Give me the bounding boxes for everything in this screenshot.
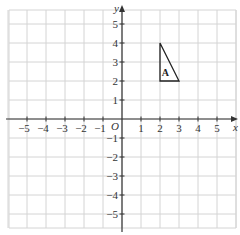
origin-label: O (111, 120, 119, 132)
y-tick-label: −3 (106, 170, 118, 182)
y-tick-label: 5 (113, 18, 119, 30)
x-tick-label: 1 (138, 122, 144, 134)
x-tick-label: 5 (214, 122, 220, 134)
coordinate-grid: xyO−5−4−3−2−112345−5−4−3−2−112345A (0, 0, 240, 235)
x-tick-label: −1 (94, 122, 106, 134)
y-tick-label: −1 (106, 132, 118, 144)
x-tick-label: 2 (157, 122, 163, 134)
x-axis-label: x (232, 121, 238, 133)
y-tick-label: −5 (106, 208, 118, 220)
x-tick-label: 4 (195, 122, 201, 134)
y-tick-label: 3 (113, 56, 119, 68)
y-axis-arrow-icon (119, 5, 125, 12)
y-tick-label: 1 (113, 94, 119, 106)
x-tick-label: −4 (37, 122, 49, 134)
y-tick-label: −4 (106, 189, 118, 201)
y-tick-label: 4 (113, 37, 119, 49)
x-tick-label: −5 (18, 122, 30, 134)
shape-label: A (162, 67, 170, 78)
y-tick-label: −2 (106, 151, 118, 163)
x-tick-label: −2 (75, 122, 87, 134)
y-tick-label: 2 (113, 75, 119, 87)
y-axis-label: y (113, 2, 119, 14)
x-tick-label: 3 (176, 122, 182, 134)
x-tick-label: −3 (56, 122, 68, 134)
